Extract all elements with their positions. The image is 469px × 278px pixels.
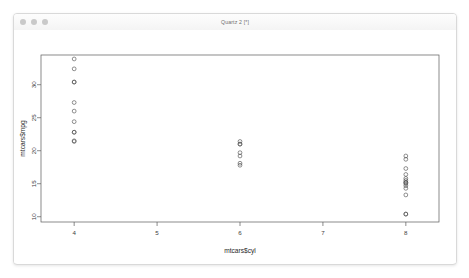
data-point [72,130,76,134]
data-point [72,57,76,61]
plot-canvas: 456781015202530mtcars$cylmtcars$mpg [14,30,456,263]
y-tick-label: 30 [30,81,37,88]
x-tick-label: 5 [155,229,159,236]
plot-frame [41,55,439,222]
data-point [404,212,408,216]
x-tick-label: 4 [72,229,76,236]
window-title: Quartz 2 [*] [14,17,456,27]
quartz-plot-window[interactable]: Quartz 2 [*] 456781015202530mtcars$cylmt… [13,13,457,265]
data-point [72,120,76,124]
data-point [72,67,76,71]
y-tick-label: 25 [30,114,37,121]
x-tick-label: 6 [238,229,242,236]
data-point [404,193,408,197]
y-tick-label: 20 [30,147,37,154]
data-point [72,109,76,113]
data-point [404,167,408,171]
x-axis-title: mtcars$cyl [224,247,256,255]
data-point [72,101,76,105]
window-titlebar[interactable]: Quartz 2 [*] [14,14,456,31]
scatter-plot: 456781015202530mtcars$cylmtcars$mpg [14,30,456,263]
x-tick-label: 7 [321,229,325,236]
data-point [72,80,76,84]
data-point [404,173,408,177]
y-axis-title: mtcars$mpg [19,120,27,157]
y-tick-label: 15 [30,180,37,187]
y-tick-label: 10 [30,213,37,220]
x-tick-label: 8 [404,229,408,236]
data-point [238,140,242,144]
